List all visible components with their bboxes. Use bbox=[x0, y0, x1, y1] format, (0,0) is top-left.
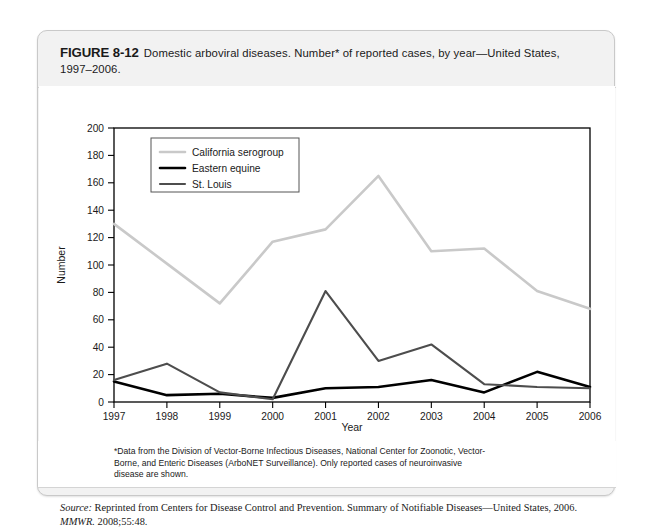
figure-number: FIGURE 8-12 bbox=[60, 45, 139, 60]
y-tick-label: 160 bbox=[87, 177, 104, 188]
y-tick-label: 0 bbox=[98, 397, 104, 408]
x-tick-label: 2003 bbox=[420, 411, 443, 422]
figure-footnote: *Data from the Division of Vector-Borne … bbox=[38, 441, 616, 488]
x-tick-label: 1998 bbox=[156, 411, 179, 422]
series-lines bbox=[114, 176, 590, 399]
legend-label: Eastern equine bbox=[192, 163, 261, 174]
y-tick-label: 140 bbox=[87, 205, 104, 216]
x-tick-label: 2005 bbox=[526, 411, 549, 422]
y-tick-label: 60 bbox=[93, 314, 105, 325]
y-tick-label: 80 bbox=[93, 287, 105, 298]
figure-card: FIGURE 8-12Domestic arboviral diseases. … bbox=[37, 30, 615, 496]
x-tick-label: 1999 bbox=[208, 411, 231, 422]
y-tick-label: 20 bbox=[93, 369, 105, 380]
footnote-line-3: disease are shown. bbox=[114, 469, 571, 481]
source-text-1: Reprinted from Centers for Disease Contr… bbox=[92, 502, 577, 513]
caption-line-2: 1997–2006. bbox=[60, 61, 594, 77]
line-chart: 020406080100120140160180200 199719981999… bbox=[39, 86, 615, 441]
chart-plot-area: 020406080100120140160180200 199719981999… bbox=[39, 86, 615, 441]
x-tick-label: 2006 bbox=[579, 411, 602, 422]
y-axis-label: Number bbox=[55, 246, 67, 284]
caption-text-1: Domestic arboviral diseases. Number* of … bbox=[144, 47, 560, 59]
x-tick-label: 2000 bbox=[261, 411, 284, 422]
y-tick-label: 120 bbox=[87, 232, 104, 243]
x-tick-label: 2004 bbox=[473, 411, 496, 422]
series-line bbox=[114, 291, 590, 399]
series-line bbox=[114, 372, 590, 398]
footnote-line-2: Borne, and Enteric Diseases (ArboNET Sur… bbox=[114, 458, 571, 470]
figure-caption: FIGURE 8-12Domestic arboviral diseases. … bbox=[38, 31, 616, 88]
x-axis-label: Year bbox=[341, 421, 363, 433]
source-prefix: Source: bbox=[60, 502, 92, 513]
y-tick-label: 200 bbox=[87, 123, 104, 134]
source-text-2: 2008;55:48. bbox=[95, 516, 148, 527]
figure-source: Source: Reprinted from Centers for Disea… bbox=[38, 493, 616, 529]
x-tick-label: 1997 bbox=[103, 411, 126, 422]
x-tick-label: 2001 bbox=[314, 411, 337, 422]
chart-legend: California serogroupEastern equineSt. Lo… bbox=[151, 138, 299, 192]
y-tick-label: 100 bbox=[87, 260, 104, 271]
series-line bbox=[114, 176, 590, 309]
legend-label: California serogroup bbox=[192, 147, 284, 158]
y-axis-ticks: 020406080100120140160180200 bbox=[87, 123, 114, 408]
legend-label: St. Louis bbox=[192, 179, 232, 190]
footnote-line-1: *Data from the Division of Vector-Borne … bbox=[114, 446, 571, 458]
caption-line-1: FIGURE 8-12Domestic arboviral diseases. … bbox=[60, 45, 594, 61]
source-journal: MMWR. bbox=[60, 516, 95, 527]
y-tick-label: 40 bbox=[93, 342, 105, 353]
x-tick-label: 2002 bbox=[367, 411, 390, 422]
x-axis-ticks: 1997199819992000200120022003200420052006 bbox=[103, 402, 602, 422]
y-tick-label: 180 bbox=[87, 150, 104, 161]
